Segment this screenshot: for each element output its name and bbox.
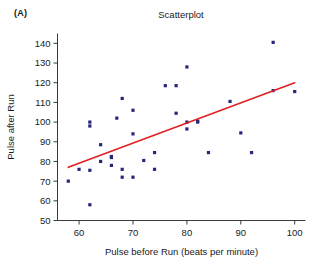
data-point [67, 180, 70, 183]
regression-line [68, 83, 294, 168]
y-tick-label: 70 [40, 176, 51, 187]
x-tick-label: 70 [128, 227, 139, 238]
y-tick-label: 50 [40, 215, 51, 226]
x-axis-ticks: 60708090100 [74, 221, 303, 238]
data-point [99, 160, 102, 163]
scatter-plot-canvas: 5060708090100110120130140 60708090100 Pu… [0, 0, 326, 274]
data-point [131, 109, 134, 112]
y-tick-label: 130 [35, 57, 51, 68]
data-point [88, 120, 91, 123]
data-point [175, 112, 178, 115]
data-point [164, 84, 167, 87]
axes: 5060708090100110120130140 60708090100 [35, 34, 306, 238]
data-point [88, 124, 91, 127]
data-point [239, 131, 242, 134]
data-point [153, 168, 156, 171]
data-point [153, 151, 156, 154]
data-point [175, 84, 178, 87]
y-axis-ticks: 5060708090100110120130140 [35, 38, 58, 226]
y-tick-label: 90 [40, 136, 51, 147]
data-point [142, 159, 145, 162]
data-point [121, 168, 124, 171]
y-tick-label: 110 [35, 97, 50, 108]
data-points [67, 41, 297, 207]
y-tick-label: 140 [35, 38, 51, 49]
x-tick-label: 90 [236, 227, 247, 238]
x-tick-label: 60 [74, 227, 85, 238]
x-axis-label: Pulse before Run (beats per minute) [105, 246, 258, 257]
y-axis-label: Pulse after Run [5, 94, 16, 159]
y-tick-label: 100 [35, 116, 51, 127]
data-point [88, 203, 91, 206]
data-point [185, 65, 188, 68]
scatterplot-figure: (A) Scatterplot 506070809010011012013014… [0, 0, 326, 274]
data-point [77, 168, 80, 171]
data-point [207, 151, 210, 154]
y-tick-label: 120 [35, 77, 51, 88]
x-tick-label: 80 [182, 227, 193, 238]
data-point [272, 41, 275, 44]
data-point [185, 127, 188, 130]
data-point [115, 117, 118, 120]
y-tick-label: 60 [40, 195, 51, 206]
data-point [250, 151, 253, 154]
x-tick-label: 100 [287, 227, 303, 238]
data-point [88, 169, 91, 172]
data-point [131, 176, 134, 179]
data-point [131, 132, 134, 135]
y-tick-label: 80 [40, 156, 51, 167]
data-point [121, 176, 124, 179]
data-point [228, 100, 231, 103]
data-point [121, 97, 124, 100]
data-point [110, 164, 113, 167]
data-point [99, 143, 102, 146]
data-point [110, 155, 113, 158]
data-point [293, 90, 296, 93]
